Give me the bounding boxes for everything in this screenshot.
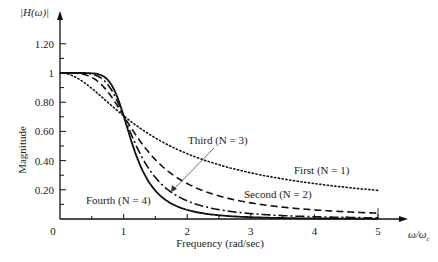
label-first: First (N = 1) [294, 164, 350, 177]
label-third: Third (N = 3) [188, 134, 248, 147]
x-tick-label: 0 [50, 225, 56, 237]
x-tick-label: 4 [312, 225, 318, 237]
butterworth-magnitude-chart: 0123450.200.400.600.8011.20 |H(ω)| Magni… [0, 0, 438, 262]
y-tick-label: 1 [49, 67, 55, 79]
y-axis-arrow-icon [57, 11, 63, 20]
y-tick-label: 1.20 [35, 38, 55, 50]
x-tick-label: 3 [248, 225, 254, 237]
y-tick-label: 0.80 [35, 96, 55, 108]
x-tick-label: 5 [375, 225, 381, 237]
x-tick-label: 1 [121, 225, 127, 237]
label-fourth: Fourth (N = 4) [86, 194, 151, 207]
x-axis-arrow-icon [399, 216, 408, 222]
x-axis-end-label: ω/ωc [408, 228, 431, 243]
y-tick-label: 0.20 [35, 184, 55, 196]
label-second: Second (N = 2) [244, 188, 312, 201]
third-arrow-line [173, 148, 214, 190]
x-axis-title: Frequency (rad/sec) [176, 237, 264, 250]
y-tick-label: 0.40 [35, 155, 55, 167]
y-axis-top-label: |H(ω)| [20, 6, 49, 19]
y-tick-label: 0.60 [35, 125, 55, 137]
y-axis-title: Magnitude [16, 126, 28, 174]
third-arrow-head-icon [171, 185, 177, 192]
x-tick-label: 2 [184, 225, 190, 237]
